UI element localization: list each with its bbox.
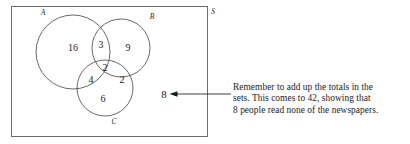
venn-diagram-canvas: A B C S 16 3 9 2 4 2 6 8 <box>0 0 410 144</box>
set-c-label: C <box>111 117 117 126</box>
region-value-a-and-b: 3 <box>99 39 104 50</box>
region-value-c-only: 6 <box>101 93 106 104</box>
region-value-b-only: 9 <box>126 42 131 53</box>
region-value-outside: 8 <box>161 88 167 100</box>
region-value-a-and-c: 4 <box>89 74 94 85</box>
universal-set-label: S <box>211 7 215 16</box>
set-a-label: A <box>40 8 46 17</box>
universal-set-rectangle <box>12 7 208 137</box>
region-value-a-and-b-and-c: 2 <box>103 62 108 73</box>
venn-diagram-figure: A B C S 16 3 9 2 4 2 6 8 Remember to add… <box>0 0 410 144</box>
annotation-line-3: 8 people read none of the newspapers. <box>233 105 405 116</box>
annotation-leader-line <box>170 91 232 97</box>
annotation-line-2: sets. This comes to 42, showing that <box>233 93 405 104</box>
region-value-b-and-c: 2 <box>120 74 125 85</box>
annotation-line-1: Remember to add up the totals in the <box>233 82 405 93</box>
region-value-a-only: 16 <box>68 42 78 53</box>
set-b-label: B <box>150 12 155 21</box>
annotation-text: Remember to add up the totals in the set… <box>233 82 405 116</box>
